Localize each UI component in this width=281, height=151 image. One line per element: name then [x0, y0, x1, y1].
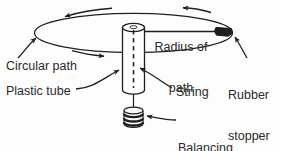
label-rubber-stopper-line2: stopper — [228, 130, 270, 144]
label-rubber-stopper-line1: Rubber — [228, 89, 270, 103]
label-circular-path: Circular path — [6, 60, 77, 74]
physics-diagram: Radius of path Circular path Plastic tub… — [0, 0, 281, 151]
label-balancing-weights-line1: Balancing — [178, 142, 233, 151]
label-radius-of-path-line1: Radius of — [142, 41, 220, 55]
leader-plastic-tube — [76, 70, 119, 89]
leader-circular-path — [18, 38, 36, 58]
label-radius-of-path: Radius of path — [142, 14, 220, 122]
label-plastic-tube: Plastic tube — [6, 85, 71, 99]
label-balancing-weights: Balancing wcights — [178, 115, 233, 151]
label-rubber-stopper: Rubber stopper — [228, 62, 270, 151]
rotation-arrow-top-right — [183, 8, 211, 13]
balancing-weights-top — [124, 107, 143, 114]
plastic-tube-bore — [130, 26, 137, 29]
label-string: String — [176, 86, 209, 100]
leader-rubber-stopper — [235, 37, 247, 58]
